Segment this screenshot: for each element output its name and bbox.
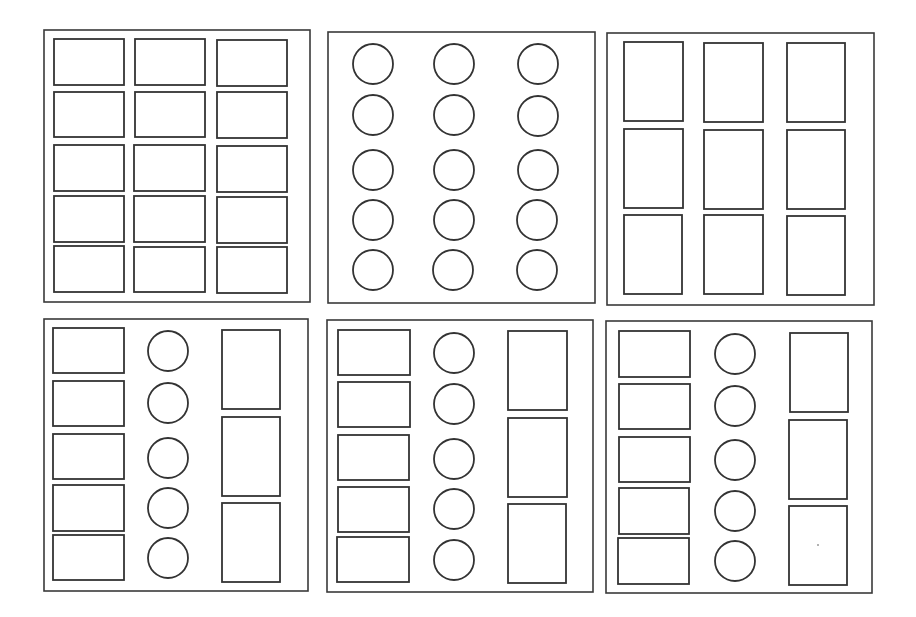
rectangle-shape bbox=[337, 537, 409, 582]
rectangle-shape bbox=[624, 215, 682, 294]
panel-1 bbox=[44, 30, 310, 302]
rectangle-shape bbox=[508, 331, 567, 410]
circle-shape bbox=[434, 384, 474, 424]
rectangle-shape bbox=[619, 331, 690, 377]
rectangle-shape bbox=[217, 197, 287, 243]
circle-shape bbox=[353, 44, 393, 84]
rectangle-shape bbox=[54, 246, 124, 292]
rectangle-shape bbox=[53, 381, 124, 426]
circle-shape bbox=[148, 538, 188, 578]
rectangle-shape bbox=[338, 330, 410, 375]
rectangle-shape bbox=[787, 43, 845, 122]
circle-shape bbox=[148, 331, 188, 371]
rectangle-shape bbox=[54, 92, 124, 137]
rectangle-shape bbox=[338, 382, 410, 427]
rectangle-shape bbox=[619, 437, 690, 482]
rectangle-shape bbox=[53, 434, 124, 479]
rectangle-shape bbox=[54, 145, 124, 191]
rectangle-shape bbox=[619, 488, 689, 534]
circle-shape bbox=[353, 150, 393, 190]
circle-shape bbox=[517, 200, 557, 240]
circle-shape bbox=[148, 438, 188, 478]
rectangle-shape bbox=[217, 146, 287, 192]
rectangle-shape bbox=[624, 129, 683, 208]
circle-shape bbox=[434, 439, 474, 479]
circle-shape bbox=[715, 440, 755, 480]
circle-shape bbox=[434, 200, 474, 240]
circle-shape bbox=[434, 95, 474, 135]
rectangle-shape bbox=[508, 418, 567, 497]
rectangle-shape bbox=[222, 330, 280, 409]
circle-shape bbox=[434, 44, 474, 84]
rectangle-shape bbox=[787, 216, 845, 295]
rectangle-shape bbox=[134, 196, 205, 242]
circle-shape bbox=[715, 541, 755, 581]
circle-shape bbox=[434, 150, 474, 190]
circle-shape bbox=[434, 333, 474, 373]
rectangle-shape bbox=[217, 40, 287, 86]
rectangle-shape bbox=[53, 535, 124, 580]
rectangle-shape bbox=[222, 417, 280, 496]
circle-shape bbox=[434, 489, 474, 529]
circle-shape bbox=[517, 250, 557, 290]
stray-dot bbox=[817, 544, 819, 546]
circle-shape bbox=[518, 44, 558, 84]
rectangle-shape bbox=[704, 43, 763, 122]
circle-shape bbox=[518, 150, 558, 190]
circle-shape bbox=[433, 250, 473, 290]
circle-shape bbox=[353, 200, 393, 240]
rectangle-shape bbox=[54, 39, 124, 85]
rectangle-shape bbox=[217, 92, 287, 138]
rectangle-shape bbox=[704, 130, 763, 209]
rectangle-shape bbox=[53, 485, 124, 531]
rectangle-shape bbox=[789, 420, 847, 499]
circle-shape bbox=[353, 95, 393, 135]
circle-shape bbox=[715, 491, 755, 531]
rectangle-shape bbox=[338, 487, 409, 532]
rectangle-shape bbox=[624, 42, 683, 121]
rectangle-shape bbox=[54, 196, 124, 242]
rectangle-shape bbox=[53, 328, 124, 373]
rectangle-shape bbox=[787, 130, 845, 209]
panel-4 bbox=[44, 319, 308, 591]
rectangle-shape bbox=[704, 215, 763, 294]
rectangle-shape bbox=[134, 145, 205, 191]
rectangle-shape bbox=[217, 247, 287, 293]
panel-5 bbox=[327, 320, 593, 592]
rectangle-shape bbox=[222, 503, 280, 582]
rectangle-shape bbox=[135, 39, 205, 85]
circle-shape bbox=[148, 488, 188, 528]
diagram-canvas bbox=[0, 0, 916, 617]
circle-shape bbox=[353, 250, 393, 290]
panel-2 bbox=[328, 32, 595, 303]
rectangle-shape bbox=[134, 247, 205, 292]
rectangle-shape bbox=[135, 92, 205, 137]
panel-6 bbox=[606, 321, 872, 593]
circle-shape bbox=[518, 96, 558, 136]
rectangle-shape bbox=[619, 384, 690, 429]
rectangle-shape bbox=[508, 504, 566, 583]
rectangle-shape bbox=[338, 435, 409, 480]
panel-3 bbox=[607, 33, 874, 305]
circle-shape bbox=[715, 386, 755, 426]
rectangle-shape bbox=[618, 538, 689, 584]
circle-shape bbox=[715, 334, 755, 374]
rectangle-shape bbox=[790, 333, 848, 412]
circle-shape bbox=[148, 383, 188, 423]
circle-shape bbox=[434, 540, 474, 580]
